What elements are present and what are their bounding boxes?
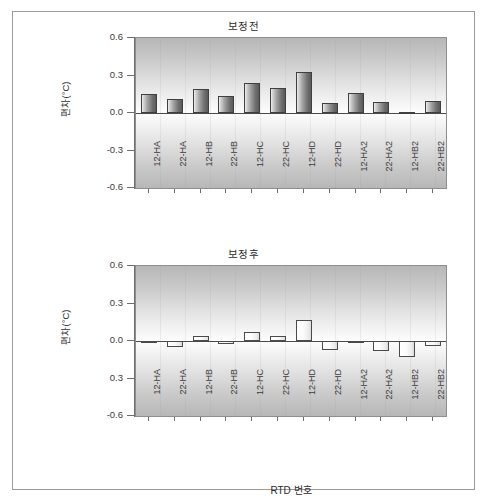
x-tick-label-12-HB2: 12-HB2 [410,369,420,423]
y-tick [127,37,134,38]
y-tick [127,303,134,304]
y-tick-label: 0.6 [83,31,123,42]
chart-panel-before: 보정전 편차(°C) 0.60.30.0-0.3-0.6 12-HA22-HA1… [13,18,474,244]
bar-face [141,341,157,343]
bar-22-HB2 [425,341,441,346]
y-tick-label: 0.3 [83,69,123,80]
bar-face [218,96,234,114]
x-tick [277,189,278,193]
x-tick-label-12-HA: 12-HA [152,141,162,195]
bar-face [373,102,389,113]
bar-face [167,99,183,113]
bar-face [244,332,260,341]
bar-12-HA [141,94,157,113]
bar-22-HA [167,99,183,113]
bar-face [218,341,234,344]
bar-22-HC [270,88,286,113]
bar-22-HA2 [373,102,389,113]
x-tick [432,189,433,193]
x-tick [200,189,201,193]
y-tick-label: -0.6 [83,409,123,420]
y-tick-label: 0.0 [83,106,123,117]
x-tick [277,417,278,421]
bar-22-HD [322,341,338,350]
bar-face [322,341,338,350]
x-tick-label-22-HC: 22-HC [281,369,291,423]
x-tick-label-12-HB: 12-HB [204,141,214,195]
bar-face [296,320,312,341]
x-tick [303,417,304,421]
x-tick-label-22-HD: 22-HD [333,369,343,423]
x-tick [329,189,330,193]
bar-face [141,94,157,113]
x-tick [148,417,149,421]
x-tick [174,189,175,193]
x-tick-label-12-HA2: 12-HA2 [359,369,369,423]
y-tick [127,378,134,379]
x-tick-label-22-HA: 22-HA [178,369,188,423]
x-tick [406,189,407,193]
y-tick [127,75,134,76]
bar-face [167,341,183,347]
figure-frame: 보정전 편차(°C) 0.60.30.0-0.3-0.6 12-HA22-HA1… [12,11,475,490]
x-tick-label-22-HB2: 22-HB2 [436,369,446,423]
x-tick [329,417,330,421]
x-tick [380,417,381,421]
bar-12-HD [296,72,312,113]
x-tick [225,189,226,193]
bar-face [296,72,312,113]
y-tick-label: 0.3 [83,372,123,383]
y-tick [127,112,134,113]
bar-face [399,341,415,357]
chart-panel-after: 보정후 편차(°C) 0.60.30.00.3-0.6 12-HA22-HA12… [13,246,474,472]
bar-face [373,341,389,351]
bar-face [348,93,364,113]
bar-12-HA2 [348,341,364,343]
y-tick [127,340,134,341]
x-tick-label-12-HC: 12-HC [255,369,265,423]
bar-22-HD [322,103,338,113]
bar-face [399,112,415,114]
x-tick [406,417,407,421]
bar-12-HC [244,83,260,113]
bar-12-HA [141,341,157,343]
bar-12-HB2 [399,112,415,114]
y-tick [127,150,134,151]
bar-12-HB2 [399,341,415,357]
bar-face [348,341,364,343]
x-tick [225,417,226,421]
bar-12-HA2 [348,93,364,113]
bar-face [425,341,441,346]
bar-22-HC [270,336,286,341]
x-tick [432,417,433,421]
y-tick-label: -0.6 [83,181,123,192]
x-tick-label-22-HC: 22-HC [281,141,291,195]
x-tick-label-22-HA: 22-HA [178,141,188,195]
x-tick [355,189,356,193]
bar-face [193,89,209,113]
x-tick [355,417,356,421]
x-tick-label-12-HB2: 12-HB2 [410,141,420,195]
x-tick-label-22-HA2: 22-HA2 [384,369,394,423]
x-tick-label-12-HD: 12-HD [307,141,317,195]
bar-22-HA2 [373,341,389,351]
x-tick [380,189,381,193]
x-tick [200,417,201,421]
bar-face [270,88,286,113]
x-tick [251,417,252,421]
bar-22-HB [218,341,234,344]
x-tick [174,417,175,421]
y-tick [127,415,134,416]
x-tick [251,189,252,193]
y-tick-label: 0.0 [83,334,123,345]
bar-12-HB [193,89,209,113]
bar-face [322,103,338,113]
y-tick-label: 0.3 [83,297,123,308]
bar-face [244,83,260,113]
x-tick-label-12-HD: 12-HD [307,369,317,423]
x-tick-label-22-HB: 22-HB [229,369,239,423]
x-tick-label-12-HA: 12-HA [152,369,162,423]
y-axis-title-before: 편차(°C) [58,39,72,159]
bar-12-HB [193,336,209,341]
bar-12-HC [244,332,260,341]
